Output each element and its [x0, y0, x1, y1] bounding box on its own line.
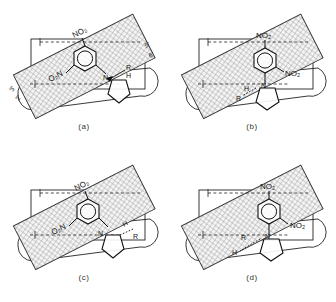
label-prime-3-a: 3'	[8, 85, 16, 93]
label-ring-nitrogen-d: N	[265, 233, 270, 240]
phenyl-ring-a	[74, 46, 96, 71]
panel-caption-d: (d)	[168, 273, 336, 282]
label-nitro-top-a: NO₂	[71, 25, 89, 40]
label-hydrogen-b: H	[244, 85, 249, 92]
label-substituent-d: R	[241, 234, 246, 241]
phenyl-ring-c	[77, 199, 99, 224]
substituent-bond-c	[120, 229, 133, 235]
panel-caption-a: (a)	[0, 122, 168, 131]
panel-a: NO₂ O₂N N R H 5' 6' 3' 2' (a)	[0, 0, 168, 151]
pyrrolidine-ring-d	[260, 239, 283, 261]
label-substituent-b: R	[236, 95, 241, 102]
label-hydrogen-a: H	[126, 72, 131, 79]
label-ring-nitrogen-c: N	[98, 230, 103, 237]
pyrrolidine-ring-c	[102, 235, 124, 258]
label-ring-nitrogen-b: N	[261, 82, 266, 89]
panel-caption-c: (c)	[0, 273, 168, 282]
label-nitro-bottom-d: NO₂	[290, 221, 305, 230]
figure-container: NO₂ O₂N N R H 5' 6' 3' 2' (a)	[0, 0, 336, 302]
phenyl-ring-d	[258, 199, 280, 224]
panel-d: NO₂ NO₂ N R H (d)	[168, 151, 336, 302]
phenyl-ring-b	[254, 48, 276, 73]
label-prime-2-a: 2'	[14, 94, 22, 102]
label-nitro-top-d: NO₂	[260, 182, 275, 191]
panel-caption-b: (b)	[168, 122, 336, 131]
panel-b: NO₂ NO₂ N H R (b)	[168, 0, 336, 151]
label-nitro-top-b: NO₂	[256, 31, 271, 40]
label-hydrogen-d: H	[232, 249, 237, 256]
label-ring-nitrogen-a: N	[103, 74, 108, 81]
label-substituent-c: R	[133, 233, 138, 240]
pyrrolidine-ring-b	[256, 88, 279, 110]
label-substituent-a: R	[126, 64, 131, 71]
panel-c: NO₂ O₂N N H R (c)	[0, 151, 168, 302]
label-nitro-bottom-b: NO₂	[285, 69, 300, 78]
